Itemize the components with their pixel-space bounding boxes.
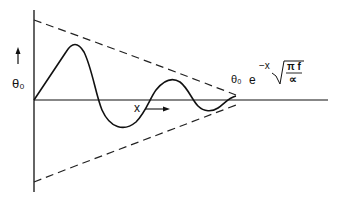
y-axis-label: θ₀ xyxy=(12,76,25,91)
fraction-numerator: π f xyxy=(287,61,301,72)
envelope-amplitude-label: θ₀ xyxy=(231,73,242,85)
damped-wave-diagram xyxy=(0,0,337,198)
envelope-exponent-prefix: −x xyxy=(259,60,270,71)
fraction-denominator: ∝ xyxy=(289,73,297,86)
x-arrow-head-icon xyxy=(163,107,170,112)
lower-envelope-curve xyxy=(34,105,236,182)
upper-envelope-curve xyxy=(34,20,236,95)
envelope-base-label: e xyxy=(249,73,256,87)
x-axis-label: x xyxy=(134,101,140,115)
y-arrow-head-icon xyxy=(16,47,21,54)
